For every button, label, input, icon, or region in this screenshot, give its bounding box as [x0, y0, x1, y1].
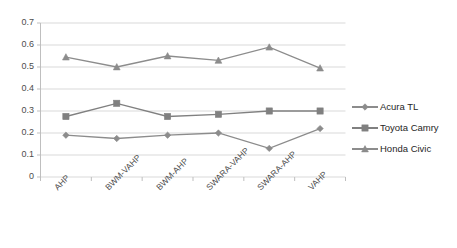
data-point-marker-diamond: [362, 103, 368, 109]
data-point-marker-diamond: [114, 135, 120, 141]
legend-item-acura-tl[interactable]: Acura TL: [352, 96, 452, 117]
legend-item-honda-civic[interactable]: Honda Civic: [352, 138, 452, 159]
legend-label: Honda Civic: [378, 143, 431, 154]
legend-label: Toyota Camry: [378, 122, 439, 133]
y-axis-label: 0.7: [8, 17, 34, 27]
data-point-marker-square: [362, 124, 368, 130]
legend-marker-icon: [352, 122, 378, 134]
legend-marker-icon: [352, 143, 378, 155]
chart-legend: Acura TLToyota CamryHonda Civic: [352, 96, 452, 159]
x-axis-ticks: [41, 177, 346, 181]
data-point-marker-diamond: [215, 130, 221, 136]
data-point-marker-triangle: [317, 65, 324, 71]
series-toyota-camry: [63, 100, 323, 119]
data-point-marker-square: [266, 108, 272, 114]
y-axis-label: 0.5: [8, 61, 34, 71]
data-point-marker-square: [164, 113, 170, 119]
y-axis-label: 0.6: [8, 39, 34, 49]
legend-marker-triangle-icon: [361, 145, 369, 153]
gridlines: [41, 23, 346, 177]
y-axis-label: 0: [8, 171, 34, 181]
data-point-marker-square: [317, 108, 323, 114]
legend-marker-icon: [352, 101, 378, 113]
y-axis-label: 0.4: [8, 83, 34, 93]
data-point-marker-square: [215, 111, 221, 117]
series-line: [66, 47, 320, 68]
series-line: [66, 129, 320, 149]
legend-label: Acura TL: [378, 101, 418, 112]
line-chart: 00.10.20.30.40.50.60.7 AHPBWM-VAHPBWM-AH…: [0, 0, 457, 248]
series-line: [66, 103, 320, 116]
data-point-marker-square: [114, 100, 120, 106]
y-axis-label: 0.1: [8, 149, 34, 159]
legend-marker-square-icon: [361, 124, 369, 132]
data-point-marker-diamond: [266, 145, 272, 151]
data-point-marker-triangle: [63, 54, 70, 60]
y-axis-label: 0.3: [8, 105, 34, 115]
data-point-marker-triangle: [362, 145, 369, 151]
data-point-marker-square: [63, 113, 69, 119]
data-point-marker-diamond: [317, 125, 323, 131]
y-axis-label: 0.2: [8, 127, 34, 137]
legend-item-toyota-camry[interactable]: Toyota Camry: [352, 117, 452, 138]
y-axis-ticks: [37, 23, 41, 177]
series-acura-tl: [63, 125, 324, 151]
legend-marker-diamond-icon: [361, 103, 369, 111]
